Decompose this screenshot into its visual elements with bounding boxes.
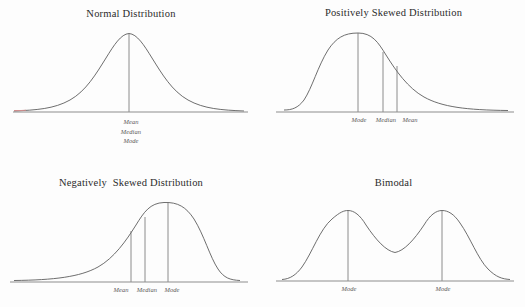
normal-marker-labels: Mean Median Mode: [121, 117, 141, 146]
positively-skewed-label-mean: Mean: [402, 116, 417, 123]
negatively-skewed-label-mean: Mean: [113, 286, 128, 293]
bimodal-label-mode-right: Mode: [435, 285, 450, 292]
normal-label-mean: Mean: [121, 117, 141, 127]
negatively-skewed-label-median: Median: [137, 286, 157, 293]
panel-negatively-skewed-distribution: Negatively Skewed Distribution Mean Medi…: [0, 155, 262, 307]
panel-positively-skewed-distribution: Positively Skewed Distribution Mode Medi…: [262, 0, 525, 155]
distribution-shapes-figure: Normal Distribution Mean Median Mode Pos…: [0, 0, 525, 307]
negatively-skewed-label-mode: Mode: [164, 286, 179, 293]
negatively-skewed-bell-curve: [14, 202, 240, 280]
positively-skewed-curve-svg: [262, 0, 525, 155]
negatively-skewed-curve-svg: [0, 155, 262, 307]
positively-skewed-bell-curve: [284, 33, 508, 111]
panel-normal-distribution: Normal Distribution Mean Median Mode: [0, 0, 262, 155]
positively-skewed-label-median: Median: [376, 116, 396, 123]
positively-skewed-label-mode: Mode: [351, 116, 366, 123]
bimodal-curve: [282, 211, 510, 280]
normal-label-mode: Mode: [121, 136, 141, 146]
bimodal-label-mode-left: Mode: [341, 285, 356, 292]
panel-bimodal-distribution: Bimodal Mode Mode: [262, 155, 525, 307]
normal-label-median: Median: [121, 127, 141, 137]
bimodal-curve-svg: [262, 155, 525, 307]
